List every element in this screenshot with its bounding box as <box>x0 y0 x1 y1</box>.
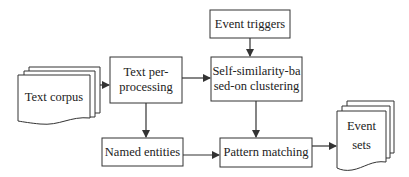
event-triggers-text: Event triggers <box>215 17 285 32</box>
event-sets-line1: Event <box>347 117 376 136</box>
self-similarity-line1: Self-similarity-ba <box>212 64 300 79</box>
event-sets-label: Event sets <box>337 115 386 157</box>
text-corpus-label: Text corpus <box>18 86 90 108</box>
self-similarity-label: Self-similarity-ba sed-on clustering <box>211 57 302 101</box>
self-similarity-line2: sed-on clustering <box>214 79 300 94</box>
event-sets-line2: sets <box>352 136 371 155</box>
named-entities-label: Named entities <box>102 138 183 166</box>
text-preprocessing-line1: Text per- <box>123 65 168 80</box>
pattern-matching-label: Pattern matching <box>220 138 312 167</box>
text-preprocessing-label: Text per- processing <box>110 57 182 103</box>
named-entities-text: Named entities <box>105 145 180 160</box>
pattern-matching-text: Pattern matching <box>223 145 308 160</box>
event-triggers-label: Event triggers <box>210 10 290 38</box>
text-preprocessing-line2: processing <box>119 80 172 95</box>
text-corpus-text: Text corpus <box>25 90 83 105</box>
